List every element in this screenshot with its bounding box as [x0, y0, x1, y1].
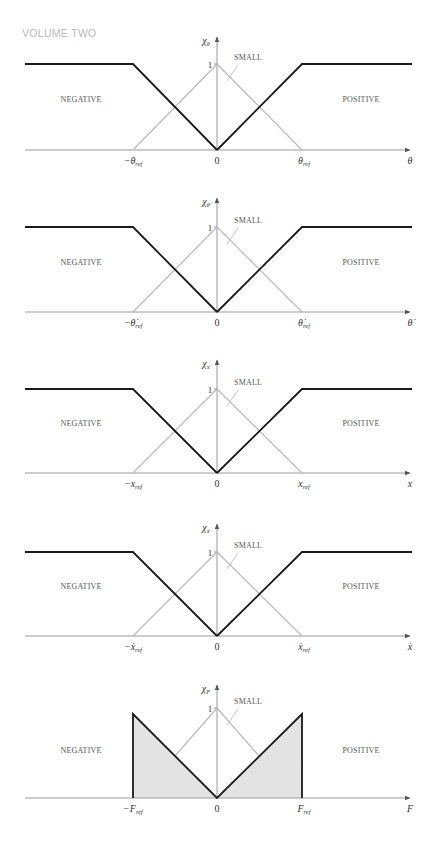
y-axis-label: χx: [201, 358, 209, 370]
positive-membership-line: [217, 227, 412, 312]
negative-membership-line: [25, 227, 217, 312]
membership-panel-3: 1SMALLNEGATIVEPOSITIVEχx−xref0xrefx: [25, 358, 413, 490]
y-tick-one-label: 1: [208, 704, 213, 714]
negative-set-label: NEGATIVE: [60, 95, 101, 104]
membership-panel-1: 1SMALLNEGATIVEPOSITIVEχθ−θref0θrefθ: [25, 35, 413, 167]
x-tick-positive-ref: xref: [297, 478, 311, 490]
x-tick-negative-ref: −xref: [124, 478, 143, 490]
x-tick-zero: 0: [215, 641, 220, 652]
y-axis-label: χθ: [201, 35, 210, 47]
x-tick-negative-ref: −θref: [124, 155, 144, 167]
positive-membership-line: [217, 64, 412, 150]
positive-set-label: POSITIVE: [342, 258, 379, 267]
small-label-leader: [227, 709, 238, 725]
small-set-label: SMALL: [234, 378, 262, 387]
membership-panel-2: 1SMALLNEGATIVEPOSITIVEχθ̇−θ̇ref0θ̇refθ̇: [25, 196, 415, 329]
negative-membership-line: [25, 552, 217, 636]
membership-function-figure: 1SMALLNEGATIVEPOSITIVEχθ−θref0θrefθ1SMAL…: [0, 0, 435, 849]
x-tick-positive-ref: Fref: [296, 803, 311, 815]
positive-set-label: POSITIVE: [342, 746, 379, 755]
x-tick-negative-ref: −ẋref: [124, 641, 143, 653]
membership-panel-5: 1SMALLNEGATIVEPOSITIVEχF−Fref0FrefF: [25, 683, 414, 815]
membership-panel-4: 1SMALLNEGATIVEPOSITIVEχẋ−ẋref0ẋrefẋ: [25, 522, 413, 653]
y-axis-label: χθ̇: [201, 196, 212, 208]
negative-set-label: NEGATIVE: [60, 419, 101, 428]
positive-membership-line: [217, 552, 412, 636]
x-axis-variable-label: F: [406, 803, 414, 814]
x-tick-positive-ref: θref: [298, 155, 311, 167]
y-tick-one-label: 1: [208, 60, 213, 70]
negative-set-label: NEGATIVE: [60, 582, 101, 591]
x-tick-zero: 0: [215, 803, 220, 814]
x-tick-negative-ref: −θ̇ref: [124, 317, 144, 329]
x-axis-variable-label: ẋ: [407, 641, 413, 652]
y-axis-label: χF: [201, 683, 211, 695]
x-tick-zero: 0: [215, 155, 220, 166]
x-axis-variable-label: θ̇: [408, 317, 416, 328]
x-axis-variable-label: x: [407, 478, 413, 489]
negative-membership-line: [25, 389, 217, 473]
positive-set-label: POSITIVE: [342, 582, 379, 591]
small-set-label: SMALL: [234, 53, 262, 62]
negative-set-label: NEGATIVE: [60, 746, 101, 755]
x-tick-zero: 0: [215, 478, 220, 489]
y-tick-one-label: 1: [208, 548, 213, 558]
small-set-label: SMALL: [234, 216, 262, 225]
x-tick-negative-ref: −Fref: [123, 803, 144, 815]
negative-membership-line: [25, 64, 217, 150]
negative-set-label: NEGATIVE: [60, 258, 101, 267]
x-tick-positive-ref: θ̇ref: [298, 317, 311, 329]
x-tick-positive-ref: ẋref: [297, 641, 311, 653]
x-tick-zero: 0: [215, 317, 220, 328]
small-set-label: SMALL: [234, 697, 262, 706]
positive-membership-line: [217, 389, 412, 473]
small-label-leader: [227, 65, 238, 81]
positive-set-label: POSITIVE: [342, 95, 379, 104]
y-axis-label: χẋ: [201, 522, 209, 534]
x-axis-variable-label: θ: [408, 155, 413, 166]
positive-set-label: POSITIVE: [342, 419, 379, 428]
y-tick-one-label: 1: [208, 223, 213, 233]
small-set-label: SMALL: [234, 541, 262, 550]
y-tick-one-label: 1: [208, 385, 213, 395]
